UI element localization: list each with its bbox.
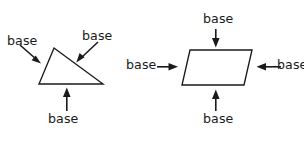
parallelogram-shape	[182, 50, 252, 85]
geometry-figure: base base base base base base base	[0, 0, 304, 156]
parallelogram-top-arrow	[212, 29, 220, 48]
parallelogram-left-arrow	[157, 63, 178, 71]
parallelogram-bottom-arrow	[212, 90, 220, 112]
figure-canvas	[0, 0, 304, 156]
triangle-label-top-right: base	[82, 29, 112, 42]
parallelogram-label-bottom: base	[203, 112, 233, 125]
triangle-bottom-arrow	[63, 88, 71, 112]
parallelogram-group	[157, 29, 281, 111]
triangle-top-right-arrow	[76, 42, 98, 63]
parallelogram-label-left: base	[126, 58, 156, 71]
triangle-label-left: base	[7, 34, 37, 47]
triangle-label-bottom: base	[48, 112, 78, 125]
parallelogram-label-top: base	[203, 12, 233, 25]
parallelogram-label-right: base	[277, 58, 304, 71]
triangle-shape	[39, 48, 103, 84]
triangle-group	[20, 42, 103, 111]
